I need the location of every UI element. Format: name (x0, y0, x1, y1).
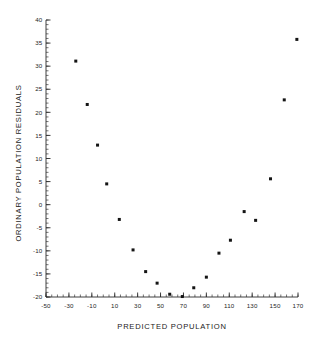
y-tick-label: 20 (35, 109, 43, 116)
x-tick-label: 110 (224, 302, 235, 309)
data-point (181, 295, 184, 298)
x-tick-label: 90 (203, 302, 211, 309)
data-point (118, 218, 121, 221)
x-tick-label: 30 (134, 302, 142, 309)
scatter-plot-figure: -20-15-10-50510152025303540 -50-30-10103… (0, 0, 313, 341)
y-tick-label: 25 (35, 85, 43, 92)
data-point (132, 248, 135, 251)
data-point (205, 276, 208, 279)
y-tick-label: 40 (35, 16, 43, 23)
y-tick-label: -20 (33, 293, 43, 300)
y-tick-label: 30 (35, 62, 43, 69)
plot-background (0, 0, 313, 341)
data-point (74, 60, 77, 63)
data-point (243, 210, 246, 213)
data-point (192, 286, 195, 289)
x-tick-label: 50 (157, 302, 165, 309)
x-tick-label: 150 (270, 302, 281, 309)
x-tick-label: -10 (87, 302, 97, 309)
x-tick-label: -50 (41, 302, 51, 309)
data-point (96, 144, 99, 147)
y-tick-label: -10 (33, 247, 43, 254)
y-tick-label: 10 (35, 155, 43, 162)
x-tick-label: 70 (180, 302, 188, 309)
data-point (229, 239, 232, 242)
data-point (156, 282, 159, 285)
x-tick-label: 130 (247, 302, 258, 309)
x-tick-label: -30 (64, 302, 74, 309)
y-tick-label: 35 (35, 39, 43, 46)
data-point (269, 177, 272, 180)
plot-canvas: -20-15-10-50510152025303540 -50-30-10103… (0, 0, 313, 341)
x-axis-title: PREDICTED POPULATION (117, 322, 226, 331)
data-point (254, 219, 257, 222)
data-point (283, 98, 286, 101)
y-tick-label: 5 (39, 178, 43, 185)
y-tick-label: -5 (37, 224, 43, 231)
data-point (168, 293, 171, 296)
y-tick-label: 15 (35, 132, 43, 139)
data-point (217, 252, 220, 255)
data-point (86, 103, 89, 106)
y-tick-label: 0 (39, 201, 43, 208)
y-axis-title: ORDINARY POPULATION RESIDUALS (14, 84, 23, 241)
x-tick-label: 10 (111, 302, 119, 309)
x-tick-label: 170 (293, 302, 304, 309)
y-tick-label: -15 (33, 270, 43, 277)
data-point (144, 270, 147, 273)
data-point (295, 38, 298, 41)
data-point (105, 182, 108, 185)
